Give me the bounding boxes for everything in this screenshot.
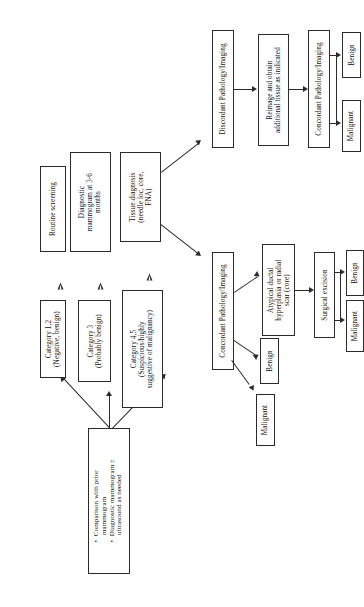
- node-category-12: Category 1,2 (Negative, benign): [40, 300, 66, 378]
- connector-category45-to-tissue: [125, 274, 153, 281]
- node-concordant-pathology-left-label: Concordant Pathology/Imaging: [219, 264, 227, 357]
- node-category-12-label: Category 1,2 (Negative, benign): [45, 311, 61, 367]
- node-reimage: Reimage and obtain additional tissue as …: [258, 34, 289, 146]
- node-concordant-pathology-right: Concordant Pathology/Imaging: [308, 30, 330, 148]
- node-benign-top-label: Benign: [347, 44, 355, 65]
- node-surgical-excision: Surgical excision: [314, 252, 335, 338]
- node-surgical-excision-label: Surgical excision: [320, 269, 328, 320]
- node-routine-screening-label: Routine screening: [49, 182, 57, 236]
- node-concordant-pathology-left: Concordant Pathology/Imaging: [212, 252, 234, 370]
- node-concordant-pathology-right-label: Concordant Pathology/Imaging: [315, 42, 323, 135]
- connector-reimage-to-concordant-right: [289, 89, 303, 90]
- connector-tissue-to-concordant-left: [160, 224, 198, 254]
- node-routine-screening: Routine screening: [40, 166, 66, 252]
- connector-concordant-right-split: [336, 55, 337, 123]
- node-malignant-low-label: Malignant: [261, 405, 269, 435]
- node-malignant-mid-label: Malignant: [351, 311, 359, 341]
- node-diagnostic-mammogram-label: Diagnostic mammogram at 3-6 months: [78, 173, 102, 231]
- connector-tissue-to-discordant: [161, 142, 199, 172]
- node-category-45: Category 4,5 (Suspicious/highly suggesti…: [122, 290, 163, 408]
- flowchart-canvas: • Comparison with prior mammogram • Diag…: [0, 0, 364, 607]
- connector-category12-to-routine: [36, 283, 64, 290]
- node-atypical-ductal: Atypical ductal hyperplasia or radial sc…: [262, 244, 295, 336]
- node-malignant-top: Malignant: [342, 100, 361, 152]
- connector-discordant-to-reimage: [234, 89, 252, 90]
- arrowhead-malignant-top: [336, 120, 341, 126]
- arrowhead-to-category3: [106, 391, 112, 396]
- node-benign-low-label: Benign: [265, 350, 273, 371]
- connector-concordant-left-to-malignant-low: [231, 360, 249, 385]
- arrowhead-to-reimage: [252, 86, 257, 92]
- arrowhead-to-malignant-low: [249, 383, 257, 391]
- node-diagnostic-mammogram: Diagnostic mammogram at 3-6 months: [70, 152, 111, 252]
- node-category-45-label: Category 4,5 (Suspicious/highly suggesti…: [130, 310, 154, 388]
- arrowhead-to-concordant-left: [195, 251, 203, 259]
- node-malignant-low: Malignant: [256, 394, 275, 446]
- node-atypical-ductal-label: Atypical ductal hyperplasia or radial sc…: [266, 259, 290, 320]
- node-malignant-mid: Malignant: [346, 300, 364, 352]
- node-initial-workup-label: • Comparison with prior mammogram • Diag…: [93, 459, 124, 542]
- node-initial-workup: • Comparison with prior mammogram • Diag…: [88, 428, 130, 574]
- node-benign-mid-label: Benign: [351, 262, 359, 283]
- node-benign-low: Benign: [260, 338, 279, 384]
- node-category-3: Category 3 (Probably benign): [78, 300, 111, 382]
- arrowhead-malignant-mid: [340, 317, 345, 323]
- node-benign-mid: Benign: [346, 250, 364, 296]
- connector-excision-split: [340, 272, 341, 320]
- arrowhead-benign-top: [336, 52, 341, 58]
- node-tissue-diagnosis: Tissue diagnosis (needle loc, core, FNA): [120, 152, 161, 242]
- node-discordant-pathology-label: Discordant Pathology/Imaging: [219, 43, 227, 134]
- node-tissue-diagnosis-label: Tissue diagnosis (needle loc, core, FNA): [128, 171, 152, 222]
- arrowhead-benign-mid: [340, 269, 345, 275]
- node-discordant-pathology: Discordant Pathology/Imaging: [212, 30, 234, 148]
- node-benign-top: Benign: [342, 32, 361, 78]
- connector-category3-to-diagnostic: [76, 283, 104, 290]
- node-malignant-top-label: Malignant: [347, 111, 355, 141]
- connector-to-category3: [109, 396, 110, 428]
- node-category-3-label: Category 3 (Probably benign): [86, 314, 102, 368]
- connector-concordant-left-to-benign-low: [233, 340, 255, 355]
- node-reimage-label: Reimage and obtain additional tissue as …: [265, 47, 281, 133]
- connector-atypical-to-excision: [295, 290, 309, 291]
- connector-to-category12: [61, 376, 109, 428]
- connector-concordant-left-to-atypical: [234, 276, 258, 292]
